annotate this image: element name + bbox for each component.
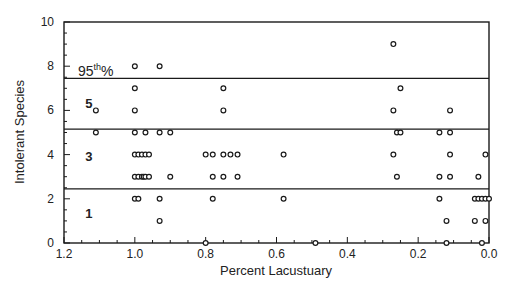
- region-label: 3: [85, 149, 92, 164]
- data-point: [147, 174, 152, 179]
- data-point: [221, 152, 226, 157]
- region-label: 1: [85, 206, 92, 221]
- data-point: [147, 152, 152, 157]
- x-axis-ticks: 1.21.00.80.60.40.20.0: [56, 237, 498, 261]
- data-point: [448, 152, 453, 157]
- data-point: [157, 130, 162, 135]
- data-point: [395, 174, 400, 179]
- data-points: [93, 42, 491, 246]
- data-point: [210, 174, 215, 179]
- data-point: [132, 86, 137, 91]
- data-point: [157, 64, 162, 69]
- reference-lines: [64, 78, 489, 188]
- data-point: [398, 130, 403, 135]
- scatter-chart: 1.21.00.80.60.40.20.0 0246810 531 95th% …: [0, 0, 522, 296]
- data-point: [168, 130, 173, 135]
- x-tick-label: 0.4: [339, 247, 356, 261]
- data-point: [480, 241, 485, 246]
- region-label: 5: [85, 96, 92, 111]
- x-tick-label: 0.6: [268, 247, 285, 261]
- data-point: [93, 130, 98, 135]
- data-point: [448, 130, 453, 135]
- x-tick-label: 1.2: [56, 247, 73, 261]
- data-point: [210, 196, 215, 201]
- data-point: [444, 241, 449, 246]
- y-tick-label: 4: [47, 148, 54, 162]
- data-point: [476, 174, 481, 179]
- data-point: [313, 241, 318, 246]
- region-labels: 531: [85, 96, 92, 222]
- x-tick-label: 0.2: [410, 247, 427, 261]
- x-tick-label: 0.0: [481, 247, 498, 261]
- y-tick-label: 8: [47, 59, 54, 73]
- data-point: [168, 174, 173, 179]
- data-point: [391, 108, 396, 113]
- data-point: [444, 219, 449, 224]
- data-point: [483, 152, 488, 157]
- x-axis-label: Percent Lacustuary: [220, 263, 333, 278]
- data-point: [281, 196, 286, 201]
- plot-frame: [64, 22, 489, 243]
- data-point: [136, 196, 141, 201]
- data-point: [132, 64, 137, 69]
- percentile-annotation: 95th%: [78, 62, 114, 79]
- data-point: [157, 219, 162, 224]
- y-tick-label: 0: [47, 236, 54, 250]
- data-point: [210, 152, 215, 157]
- data-point: [391, 152, 396, 157]
- data-point: [203, 241, 208, 246]
- data-point: [221, 86, 226, 91]
- y-tick-label: 10: [41, 15, 55, 29]
- y-tick-label: 2: [47, 192, 54, 206]
- y-tick-label: 6: [47, 103, 54, 117]
- data-point: [228, 152, 233, 157]
- data-point: [437, 196, 442, 201]
- y-axis-label: Intolerant Species: [12, 79, 27, 184]
- data-point: [472, 219, 477, 224]
- data-point: [235, 174, 240, 179]
- data-point: [437, 130, 442, 135]
- data-point: [132, 108, 137, 113]
- data-point: [487, 196, 492, 201]
- data-point: [437, 174, 442, 179]
- data-point: [203, 152, 208, 157]
- y-axis-ticks: 0246810: [41, 15, 70, 250]
- data-point: [235, 152, 240, 157]
- data-point: [391, 42, 396, 47]
- plot-border: [64, 22, 489, 243]
- data-point: [157, 196, 162, 201]
- x-tick-label: 0.8: [197, 247, 214, 261]
- data-point: [448, 108, 453, 113]
- data-point: [398, 86, 403, 91]
- data-point: [143, 130, 148, 135]
- data-point: [281, 152, 286, 157]
- data-point: [221, 174, 226, 179]
- data-point: [483, 219, 488, 224]
- data-point: [448, 174, 453, 179]
- data-point: [221, 108, 226, 113]
- data-point: [132, 130, 137, 135]
- x-tick-label: 1.0: [126, 247, 143, 261]
- data-point: [93, 108, 98, 113]
